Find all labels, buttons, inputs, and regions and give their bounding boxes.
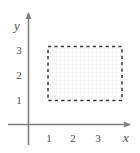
y-tick-label-3: 3	[16, 44, 22, 56]
shaded-region-fill	[48, 47, 122, 101]
x-axis-label: x	[122, 130, 129, 145]
x-tick-label-3: 3	[95, 132, 101, 144]
x-tick-label-2: 2	[70, 132, 76, 144]
x-tick-label-1: 1	[46, 132, 52, 144]
coordinate-plane-figure: y x 1 2 3 1 2 3	[0, 0, 140, 153]
shaded-region	[48, 47, 122, 101]
y-tick-label-1: 1	[16, 94, 22, 106]
y-axis-label: y	[12, 18, 20, 33]
y-tick-label-2: 2	[16, 69, 22, 81]
